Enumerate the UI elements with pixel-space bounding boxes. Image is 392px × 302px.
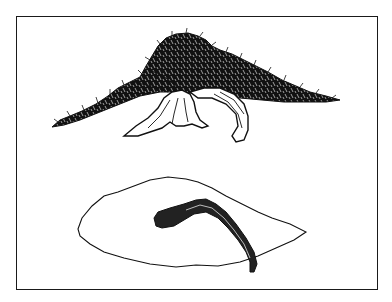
canopy-plan-outline [78, 177, 306, 267]
bonsai-illustration [0, 0, 392, 302]
